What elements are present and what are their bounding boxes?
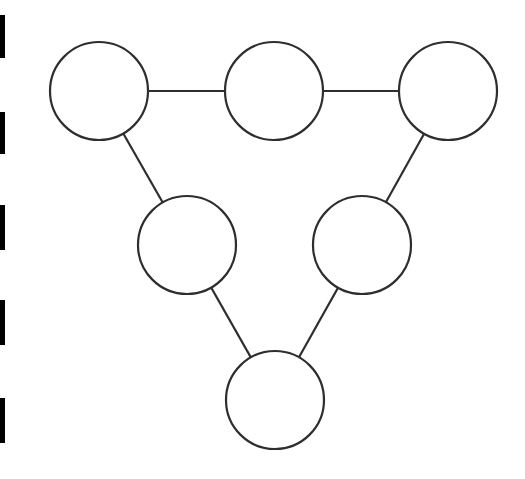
- node-n4: [138, 196, 236, 294]
- graph-nodes: [50, 42, 497, 449]
- graph-diagram: [0, 0, 525, 479]
- node-n1: [50, 42, 148, 140]
- node-n6: [226, 351, 324, 449]
- node-n3: [399, 42, 497, 140]
- node-n5: [313, 196, 411, 294]
- node-n2: [225, 42, 323, 140]
